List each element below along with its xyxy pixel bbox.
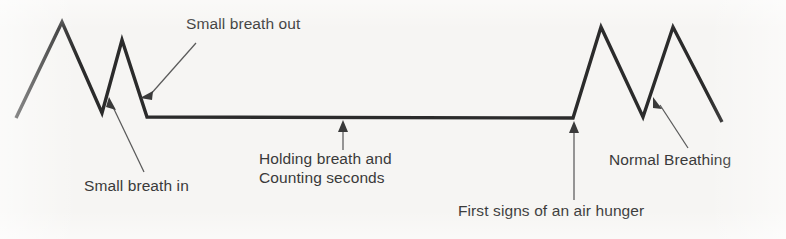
- label-small-breath-out: Small breath out: [186, 14, 300, 33]
- leader-small-breath-out: [140, 43, 196, 100]
- label-holding-breath-line2: Counting seconds: [259, 169, 385, 186]
- leader-small-breath-in: [106, 97, 144, 172]
- leader-first-signs: [569, 121, 579, 200]
- breathing-diagram: Small breath out Small breath in Holding…: [0, 0, 786, 239]
- leader-normal-breathing: [653, 97, 688, 148]
- breathing-waveform-svg: [0, 0, 786, 239]
- label-holding-breath-line1: Holding breath and: [259, 150, 392, 167]
- label-holding-breath: Holding breath andCounting seconds: [259, 149, 392, 187]
- label-normal-breathing: Normal Breathing: [609, 150, 731, 169]
- leader-holding-breath: [338, 120, 348, 150]
- label-first-signs: First signs of an air hunger: [458, 201, 644, 220]
- label-small-breath-in: Small breath in: [84, 176, 189, 195]
- breathing-trace: [16, 22, 722, 122]
